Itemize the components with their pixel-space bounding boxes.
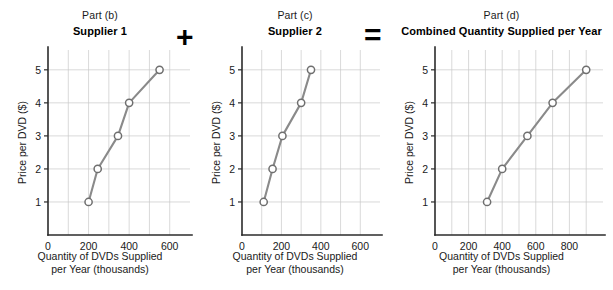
- supply-curves-figure: Part (b) Supplier 1 123450200400600Price…: [0, 0, 613, 290]
- data-point-marker: [260, 198, 267, 205]
- x-caption-line-1: Quantity of DVDs Supplied: [390, 250, 613, 263]
- y-tick-label: 3: [35, 130, 41, 142]
- data-point-marker: [549, 99, 556, 106]
- data-point-marker: [583, 66, 590, 73]
- data-point-marker: [85, 198, 92, 205]
- y-tick-label: 1: [35, 196, 41, 208]
- chart-panel-supplier-2: Part (c) Supplier 2 123450200400600Price…: [200, 0, 390, 290]
- x-tick-label: 600: [527, 240, 545, 250]
- x-tick-label: 200: [460, 240, 478, 250]
- x-axis-caption-supplier-1: Quantity of DVDs Supplied per Year (thou…: [0, 250, 200, 275]
- x-tick-label: 600: [352, 240, 370, 250]
- y-tick-label: 5: [229, 64, 235, 76]
- x-tick-label: 800: [561, 240, 579, 250]
- x-tick-label: 400: [120, 240, 138, 250]
- equals-icon: =: [364, 20, 382, 50]
- data-point-marker: [269, 165, 276, 172]
- x-tick-label: 0: [432, 240, 438, 250]
- data-point-marker: [524, 132, 531, 139]
- x-axis-caption-combined: Quantity of DVDs Supplied per Year (thou…: [390, 250, 613, 275]
- x-tick-label: 0: [239, 240, 245, 250]
- x-caption-line-1: Quantity of DVDs Supplied: [200, 250, 390, 263]
- y-tick-label: 5: [35, 64, 41, 76]
- y-tick-label: 1: [422, 196, 428, 208]
- data-point-marker: [279, 132, 286, 139]
- chart-panel-supplier-1: Part (b) Supplier 1 123450200400600Price…: [0, 0, 200, 290]
- plot-svg-supplier-2: 123450200400600Price per DVD ($): [200, 0, 390, 250]
- y-tick-label: 4: [422, 97, 428, 109]
- x-tick-label: 400: [493, 240, 511, 250]
- data-point-marker: [298, 99, 305, 106]
- x-tick-label: 200: [80, 240, 98, 250]
- x-tick-label: 200: [273, 240, 291, 250]
- y-tick-label: 3: [422, 130, 428, 142]
- plot-area-supplier-2: 123450200400600Price per DVD ($): [200, 0, 390, 290]
- x-caption-line-2: per Year (thousands): [200, 263, 390, 276]
- x-caption-line-2: per Year (thousands): [390, 263, 613, 276]
- y-tick-label: 4: [229, 97, 235, 109]
- plot-area-combined: 123450200400600800Price per DVD ($): [390, 0, 613, 290]
- x-axis-caption-supplier-2: Quantity of DVDs Supplied per Year (thou…: [200, 250, 390, 275]
- y-tick-label: 3: [229, 130, 235, 142]
- plot-area-supplier-1: 123450200400600Price per DVD ($): [0, 0, 200, 290]
- y-axis-label: Price per DVD ($): [403, 101, 415, 184]
- y-tick-label: 1: [229, 196, 235, 208]
- y-tick-label: 2: [229, 163, 235, 175]
- data-point-marker: [307, 66, 314, 73]
- y-axis-label: Price per DVD ($): [210, 101, 222, 184]
- data-point-marker: [483, 198, 490, 205]
- y-tick-label: 2: [35, 163, 41, 175]
- y-tick-label: 5: [422, 64, 428, 76]
- x-tick-label: 0: [45, 240, 51, 250]
- plus-icon: +: [176, 22, 194, 52]
- x-tick-label: 600: [161, 240, 179, 250]
- y-axis-label: Price per DVD ($): [16, 101, 28, 184]
- x-caption-line-2: per Year (thousands): [0, 263, 200, 276]
- data-point-marker: [156, 66, 163, 73]
- x-caption-line-1: Quantity of DVDs Supplied: [0, 250, 200, 263]
- chart-panel-combined: Part (d) Combined Quantity Supplied per …: [390, 0, 613, 290]
- data-point-marker: [126, 99, 133, 106]
- y-tick-label: 2: [422, 163, 428, 175]
- x-tick-label: 400: [312, 240, 330, 250]
- plot-svg-combined: 123450200400600800Price per DVD ($): [390, 0, 613, 250]
- data-point-marker: [94, 165, 101, 172]
- y-tick-label: 4: [35, 97, 41, 109]
- data-point-marker: [114, 132, 121, 139]
- plot-svg-supplier-1: 123450200400600Price per DVD ($): [0, 0, 200, 250]
- data-point-marker: [499, 165, 506, 172]
